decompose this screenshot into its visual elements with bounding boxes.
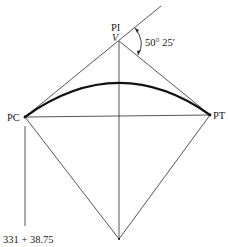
station-label: 331 + 38.75 — [3, 234, 54, 245]
back-tangent-line — [25, 6, 161, 117]
angle-label: 50° 25′ — [145, 37, 175, 48]
pt-point — [209, 114, 212, 117]
forward-tangent-line — [119, 41, 210, 115]
radius-pc-line — [25, 117, 119, 239]
radius-pt-line — [119, 115, 210, 239]
bottom-point — [118, 238, 120, 240]
long-chord-line — [25, 115, 210, 117]
pc-point — [24, 116, 27, 119]
pc-label: PC — [7, 112, 20, 123]
arrowhead-bottom-icon — [137, 50, 141, 55]
circular-curve — [25, 83, 210, 117]
curve-diagram: PI V 50° 25′ PC PT 331 + 38.75 — [0, 0, 228, 247]
pt-label: PT — [213, 110, 226, 121]
